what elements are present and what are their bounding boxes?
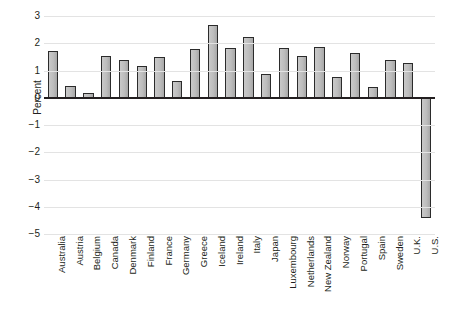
x-axis-tick-label: Greece: [199, 236, 208, 267]
x-axis-tick-label: Finland: [146, 236, 155, 267]
bar-netherlands: [297, 56, 307, 98]
bar-france: [154, 57, 164, 98]
y-axis-tick-label: −1: [18, 120, 40, 130]
y-axis-tick-label: 1: [18, 66, 40, 76]
x-axis-tick-label: Portugal: [359, 236, 368, 271]
x-axis-tick-label: Australia: [57, 236, 66, 273]
bar-denmark: [119, 60, 129, 97]
x-axis-tick-label: Luxembourg: [288, 236, 297, 289]
bar-australia: [48, 51, 58, 98]
bar-u-s: [421, 98, 431, 219]
gridline: [44, 16, 435, 17]
plot-area: 3210−1−2−3−4−5: [44, 16, 435, 234]
x-axis-tick-label: New Zealand: [323, 236, 332, 292]
gridline: [44, 125, 435, 126]
bar-japan: [261, 74, 271, 97]
bar-germany: [172, 81, 182, 98]
x-axis-tick-label: Germany: [181, 236, 190, 275]
bar-sweden: [385, 60, 395, 97]
bar-canada: [101, 56, 111, 98]
gridline: [44, 207, 435, 208]
bar-iceland: [208, 25, 218, 97]
bar-u-k: [403, 63, 413, 98]
x-axis-tick-label: Norway: [341, 236, 350, 268]
bar-luxembourg: [279, 48, 289, 97]
y-axis-tick-label: −5: [18, 229, 40, 239]
x-axis-labels: AustraliaAustriaBelgiumCanadaDenmarkFinl…: [44, 236, 435, 312]
y-axis-tick-label: 0: [18, 93, 40, 103]
bar-greece: [190, 49, 200, 98]
y-axis-tick-label: 3: [18, 11, 40, 21]
x-axis-tick-label: Iceland: [217, 236, 226, 267]
x-axis-tick-label: Japan: [270, 236, 279, 262]
x-axis-tick-label: Belgium: [92, 236, 101, 270]
x-axis-tick-label: Austria: [75, 236, 84, 266]
gridline: [44, 180, 435, 181]
bar-portugal: [350, 53, 360, 97]
bar-norway: [332, 77, 342, 98]
bar-italy: [243, 37, 253, 98]
x-axis-tick-label: U.K.: [412, 236, 421, 254]
gridline: [44, 234, 435, 235]
y-axis-tick-label: −4: [18, 202, 40, 212]
gridline: [44, 43, 435, 44]
zero-axis-line: [44, 97, 435, 99]
bar-ireland: [225, 48, 235, 97]
gridline: [44, 152, 435, 153]
x-axis-tick-label: Italy: [252, 236, 261, 253]
gridline: [44, 71, 435, 72]
x-axis-tick-label: Netherlands: [306, 236, 315, 287]
x-axis-tick-label: Denmark: [128, 236, 137, 275]
y-axis-tick-label: −3: [18, 175, 40, 185]
x-axis-tick-label: Canada: [110, 236, 119, 269]
y-axis-tick-label: −2: [18, 147, 40, 157]
x-axis-tick-label: Ireland: [235, 236, 244, 265]
bar-new-zealand: [314, 47, 324, 97]
x-axis-tick-label: Sweden: [395, 236, 404, 270]
x-axis-tick-label: U.S.: [430, 236, 439, 254]
y-axis-tick-label: 2: [18, 38, 40, 48]
bar-chart: Percent 3210−1−2−3−4−5 AustraliaAustriaB…: [0, 0, 459, 312]
x-axis-tick-label: France: [164, 236, 173, 266]
x-axis-tick-label: Spain: [377, 236, 386, 260]
